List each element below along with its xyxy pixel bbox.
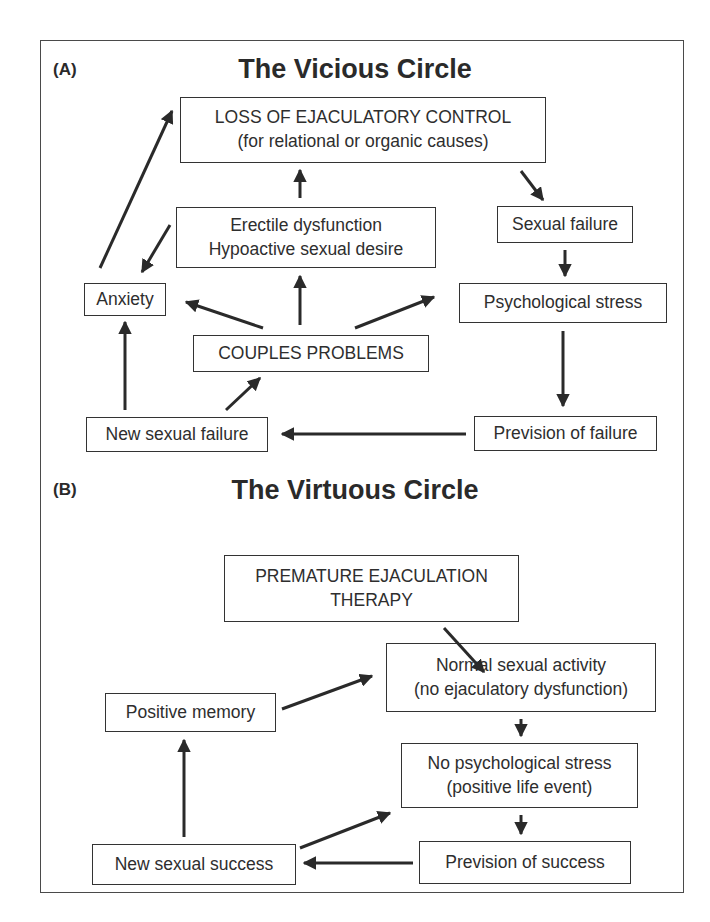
arrow-loss-to-sexual-failure bbox=[521, 171, 543, 200]
arrow-memory-to-normal bbox=[282, 676, 372, 709]
arrow-couples-to-stress bbox=[355, 297, 434, 328]
arrow-layer bbox=[0, 0, 710, 922]
arrow-success-to-no-stress bbox=[300, 813, 390, 848]
arrow-anxiety-to-loss bbox=[100, 111, 172, 268]
arrow-couples-to-anxiety bbox=[186, 302, 263, 328]
arrow-therapy-to-normal bbox=[444, 628, 484, 672]
arrow-new-failure-to-couples bbox=[226, 378, 260, 410]
arrow-erectile-to-anxiety bbox=[142, 225, 170, 272]
